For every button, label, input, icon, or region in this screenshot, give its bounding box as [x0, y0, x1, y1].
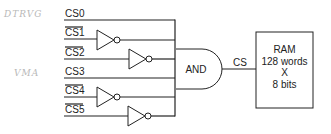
and-gate-label: AND [185, 64, 206, 75]
annotation-vma: VMA [14, 68, 39, 78]
ram-times: X [281, 67, 288, 78]
ram-bits: 8 bits [273, 79, 297, 90]
signal-label-cs3: CS3 [65, 66, 85, 77]
annotation-top-left: DTRVG [3, 9, 42, 19]
ram-words: 128 words [261, 56, 307, 67]
ram-title: RAM [273, 44, 295, 55]
signal-label-cs4: CS4 [65, 85, 85, 96]
signal-label-cs0: CS0 [65, 8, 85, 19]
signal-label-cs5: CS5 [65, 104, 85, 115]
signal-label-cs1: CS1 [65, 27, 85, 38]
output-label-cs: CS [233, 57, 247, 68]
chip-select-diagram: DTRVG VMA CS0 CS1 CS2 CS3 CS4 CS5 [0, 0, 331, 134]
signal-label-cs2: CS2 [65, 47, 85, 58]
